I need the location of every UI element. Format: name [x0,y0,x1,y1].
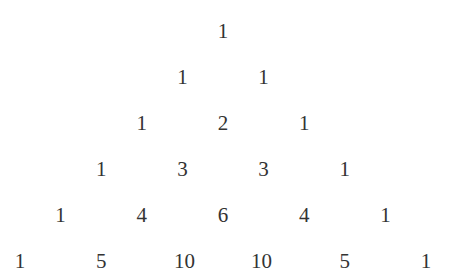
triangle-entry: 5 [340,251,351,272]
triangle-entry: 3 [177,159,188,180]
triangle-entry: 1 [55,205,66,226]
triangle-entry: 6 [218,205,229,226]
triangle-entry: 4 [137,205,148,226]
triangle-entry: 4 [299,205,310,226]
triangle-entry: 1 [380,205,391,226]
triangle-entry: 1 [96,159,107,180]
triangle-entry: 1 [299,113,310,134]
triangle-entry: 5 [96,251,107,272]
triangle-entry: 1 [137,113,148,134]
triangle-entry: 10 [174,251,195,272]
pascals-triangle: 11112113311464115101051 [0,0,453,279]
triangle-entry: 2 [218,113,229,134]
triangle-entry: 1 [421,251,432,272]
triangle-entry: 3 [258,159,269,180]
triangle-entry: 1 [15,251,26,272]
triangle-entry: 1 [258,67,269,88]
triangle-entry: 1 [177,67,188,88]
triangle-entry: 1 [340,159,351,180]
triangle-entry: 1 [218,21,229,42]
triangle-entry: 10 [251,251,272,272]
